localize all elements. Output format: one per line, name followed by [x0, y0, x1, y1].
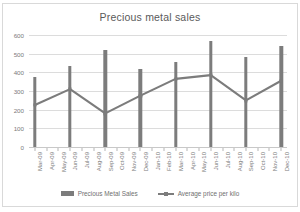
- x-axis-tick: [199, 148, 200, 151]
- x-axis-tick: [34, 148, 35, 151]
- x-axis-label-Nov-10: Nov-10: [272, 152, 278, 171]
- x-axis-label-Dec-09: Dec-09: [143, 152, 149, 171]
- line-marker-Mar-10: [174, 77, 177, 80]
- y-axis-tick-label: 400: [14, 69, 24, 76]
- x-axis-tick: [269, 148, 270, 151]
- x-axis-tick: [210, 148, 211, 151]
- y-axis-tick-label: 300: [14, 88, 24, 95]
- x-axis-label-Jul-09: Jul-09: [84, 152, 90, 168]
- line-markers: [29, 35, 287, 147]
- x-axis-label-Oct-10: Oct-10: [260, 152, 266, 170]
- x-axis-tick: [175, 148, 176, 151]
- plot-area: [29, 35, 287, 147]
- legend-label-bar: Precious Metal Sales: [78, 190, 138, 197]
- x-axis-tick: [257, 148, 258, 151]
- line-swatch-icon: [158, 191, 174, 196]
- x-axis-tick: [245, 148, 246, 151]
- chart-legend: Precious Metal Sales Average price per k…: [3, 190, 297, 197]
- y-axis-tick-label: 0: [21, 144, 24, 151]
- x-axis-tick: [58, 148, 59, 151]
- x-axis-tick: [105, 148, 106, 151]
- x-axis-label-Apr-10: Apr-10: [190, 152, 196, 170]
- legend-item-line: Average price per kilo: [158, 190, 240, 197]
- line-marker-Mar-09: [33, 103, 36, 106]
- x-axis-tick: [187, 148, 188, 151]
- x-axis-label-Jun-09: Jun-09: [72, 152, 78, 170]
- x-axis-tick: [140, 148, 141, 151]
- x-axis-label-Jan-10: Jan-10: [155, 152, 161, 170]
- x-axis-tick: [222, 148, 223, 151]
- line-marker-Dec-09: [139, 94, 142, 97]
- x-axis-label-Jul-10: Jul-10: [225, 152, 231, 168]
- legend-item-bar: Precious Metal Sales: [61, 190, 138, 197]
- x-axis-label-Aug-09: Aug-09: [96, 152, 102, 171]
- bar-swatch-icon: [61, 191, 74, 196]
- x-axis-tick: [234, 148, 235, 151]
- x-axis-tick: [93, 148, 94, 151]
- x-axis-tick: [116, 148, 117, 151]
- x-axis-tick: [281, 148, 282, 151]
- line-marker-Jun-09: [68, 88, 71, 91]
- line-marker-Dec-10: [280, 79, 283, 82]
- x-axis-label-May-09: May-09: [61, 152, 67, 172]
- x-axis-tick: [163, 148, 164, 151]
- y-axis-tick-label: 100: [14, 125, 24, 132]
- x-axis-tick: [46, 148, 47, 151]
- line-marker-Sep-09: [104, 112, 107, 115]
- x-axis: Mar-09Apr-09May-09Jun-09Jul-09Aug-09Sep-…: [29, 148, 287, 182]
- x-axis-label-Oct-09: Oct-09: [119, 152, 125, 170]
- chart-title: Precious metal sales: [3, 11, 297, 23]
- x-axis-label-May-10: May-10: [201, 152, 207, 172]
- x-axis-label-Mar-09: Mar-09: [37, 152, 43, 171]
- x-axis-label-Mar-10: Mar-10: [178, 152, 184, 171]
- y-axis-tick-label: 600: [14, 32, 24, 39]
- y-axis: 0100200300400500600: [3, 35, 27, 147]
- x-axis-label-Jun-10: Jun-10: [213, 152, 219, 170]
- chart-container: Precious metal sales 0100200300400500600…: [2, 3, 298, 207]
- line-marker-Sep-10: [244, 99, 247, 102]
- x-axis-label-Sep-10: Sep-10: [248, 152, 254, 171]
- x-axis-label-Nov-09: Nov-09: [131, 152, 137, 171]
- x-axis-tick: [128, 148, 129, 151]
- x-axis-tick: [81, 148, 82, 151]
- x-axis-label-Dec-10: Dec-10: [284, 152, 290, 171]
- x-axis-label-Feb-10: Feb-10: [166, 152, 172, 171]
- x-axis-label-Aug-10: Aug-10: [237, 152, 243, 171]
- x-axis-label-Sep-09: Sep-09: [108, 152, 114, 171]
- legend-label-line: Average price per kilo: [178, 190, 240, 197]
- y-axis-tick-label: 200: [14, 106, 24, 113]
- line-marker-Jun-10: [209, 74, 212, 77]
- x-axis-tick: [152, 148, 153, 151]
- y-axis-tick-label: 500: [14, 50, 24, 57]
- x-axis-tick: [70, 148, 71, 151]
- x-axis-label-Apr-09: Apr-09: [49, 152, 55, 170]
